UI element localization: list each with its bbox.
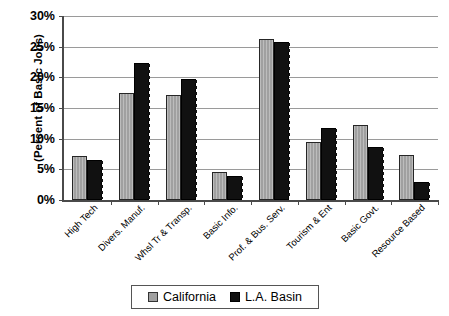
x-axis-tick-labels: High TechDivers. Manuf.Whsl Tr & Transp.…: [62, 202, 436, 276]
y-axis-tick-mark: [59, 77, 64, 78]
bar-california: [353, 125, 368, 200]
y-axis-tick-label: 15%: [30, 101, 55, 115]
bar-california: [119, 93, 134, 200]
bar-la-basin: [274, 42, 289, 200]
bar-group: [72, 16, 102, 200]
bar-california: [399, 155, 414, 200]
y-axis-tick-mark: [59, 47, 64, 48]
legend-item-california: California: [148, 290, 216, 304]
bar-group: [306, 16, 336, 200]
black-square-icon: [230, 292, 240, 302]
y-axis-tick-label: 10%: [30, 132, 55, 146]
bar-group: [166, 16, 196, 200]
plot-area: [62, 16, 438, 202]
gray-square-icon: [148, 292, 158, 302]
bar-california: [259, 39, 274, 200]
x-axis-tick-mark: [438, 200, 439, 205]
bar-california: [72, 156, 87, 200]
y-axis-tick-label: 30%: [30, 9, 55, 23]
y-axis-tick-label: 20%: [30, 70, 55, 84]
x-axis-tick-label: Basic Info.: [201, 202, 240, 241]
bar-la-basin: [134, 63, 149, 200]
y-axis-tick-mark: [59, 139, 64, 140]
bar-la-basin: [414, 182, 429, 200]
x-axis-tick-label: High Tech: [62, 202, 100, 240]
y-axis-tick-mark: [59, 169, 64, 170]
bar-california: [212, 172, 227, 200]
bar-la-basin: [181, 79, 196, 200]
x-axis-tick-label: Tourism & Ent: [284, 202, 334, 252]
bar-group: [399, 16, 429, 200]
y-axis-tick-label: 0%: [37, 193, 55, 207]
legend-label-california: California: [163, 290, 216, 304]
y-axis-tick-mark: [59, 200, 64, 201]
chart-legend: California L.A. Basin: [131, 285, 319, 309]
bar-la-basin: [87, 160, 102, 200]
y-axis-tick-label: 5%: [37, 162, 55, 176]
y-axis-tick-label: 25%: [30, 40, 55, 54]
x-axis-tick-label: Divers. Manuf.: [95, 202, 146, 253]
y-axis-tick-labels: 30%25%20%15%10%5%0%: [0, 16, 55, 200]
bar-group: [212, 16, 242, 200]
bar-group: [259, 16, 289, 200]
bar-chart: (Percent of Basic Jobs) 30%25%20%15%10%5…: [0, 0, 449, 316]
legend-label-la-basin: L.A. Basin: [245, 290, 302, 304]
bar-la-basin: [227, 176, 242, 200]
bar-la-basin: [321, 128, 336, 200]
y-axis-tick-mark: [59, 16, 64, 17]
bar-california: [306, 142, 321, 200]
bar-group: [353, 16, 383, 200]
bar-california: [166, 95, 181, 200]
bar-group: [119, 16, 149, 200]
x-axis-tick-label: Basic Govt.: [338, 202, 380, 244]
bar-la-basin: [368, 147, 383, 200]
y-axis-tick-mark: [59, 108, 64, 109]
legend-item-la-basin: L.A. Basin: [230, 290, 302, 304]
